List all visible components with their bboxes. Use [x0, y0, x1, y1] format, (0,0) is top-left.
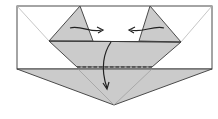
- bottom-triangle: [17, 69, 212, 105]
- origami-diagram: [0, 0, 218, 119]
